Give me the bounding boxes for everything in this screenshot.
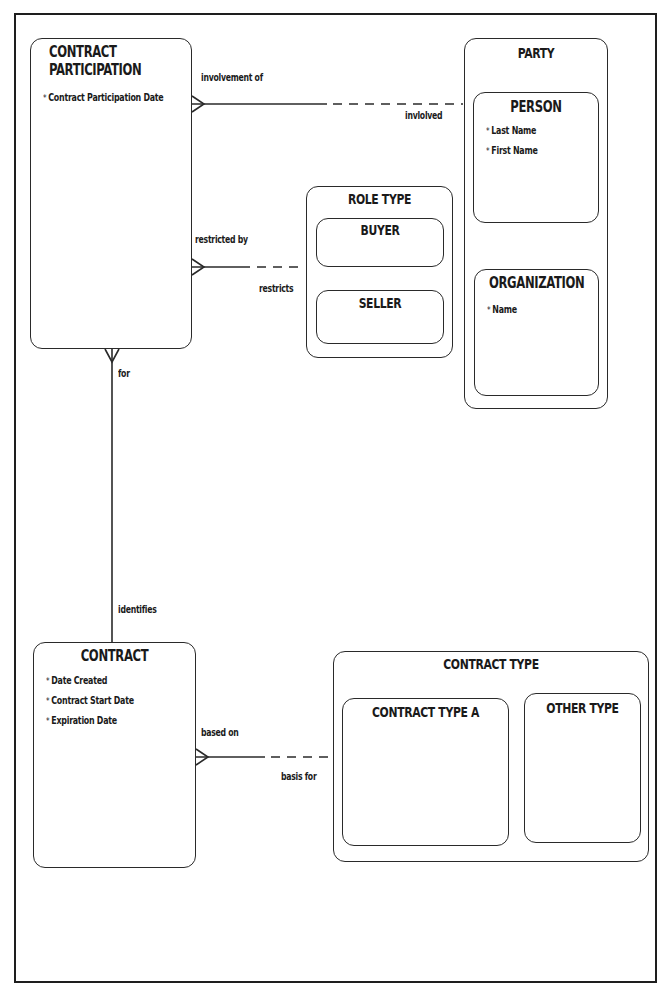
relationship-contract-type [195, 749, 331, 765]
relationship-label-involvement-of: involvement of [201, 72, 263, 83]
subtype-buyer[interactable]: BUYER [316, 218, 444, 267]
attribute: Name [487, 300, 517, 320]
entity-contract-participation[interactable]: CONTRACT PARTICIPATION Contract Particip… [30, 38, 192, 349]
entity-title: ROLE TYPE [317, 191, 442, 207]
relationship-label-restricted-by: restricted by [195, 234, 248, 245]
attribute: Date Created [46, 671, 134, 691]
relationship-label-for: for [118, 368, 130, 379]
relationship-label-identifies: identifies [118, 604, 157, 615]
attribute: Last Name [486, 121, 538, 141]
subtype-title: ORGANIZATION [489, 274, 584, 292]
relationship-label-involved: invlolved [405, 110, 442, 121]
entity-title: PARTY [475, 45, 597, 61]
subtype-other-type[interactable]: OTHER TYPE [524, 693, 641, 843]
subtype-seller[interactable]: SELLER [316, 290, 444, 344]
relationship-label-based-on: based on [201, 727, 239, 738]
subtype-title: SELLER [326, 295, 434, 311]
subtype-title: BUYER [326, 222, 434, 238]
relationship-participation-role [191, 259, 304, 275]
entity-title-line1: CONTRACT [49, 43, 171, 61]
subtype-title: CONTRACT TYPE A [355, 704, 497, 720]
entity-title-line2: PARTICIPATION [49, 61, 171, 79]
entity-title: CONTRACT [45, 647, 183, 665]
subtype-person[interactable]: PERSON Last Name First Name [473, 92, 599, 223]
entity-contract[interactable]: CONTRACT Date Created Contract Start Dat… [33, 642, 196, 868]
attribute: Expiration Date [46, 711, 134, 731]
relationship-participation-contract [105, 348, 119, 642]
subtype-organization[interactable]: ORGANIZATION Name [474, 269, 599, 396]
subtype-contract-type-a[interactable]: CONTRACT TYPE A [342, 698, 509, 846]
attribute: Contract Start Date [46, 691, 134, 711]
attribute: First Name [486, 141, 538, 161]
relationship-label-basis-for: basis for [281, 771, 316, 782]
relationship-label-restricts: restricts [259, 283, 293, 294]
subtype-title: PERSON [483, 98, 590, 116]
entity-title: CONTRACT TYPE [356, 656, 626, 672]
subtype-title: OTHER TYPE [533, 700, 632, 716]
attribute: Contract Participation Date [43, 88, 163, 108]
